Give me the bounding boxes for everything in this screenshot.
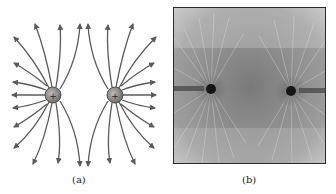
- field-lines-diagram: + +: [0, 0, 168, 170]
- svg-text:+: +: [111, 91, 119, 101]
- grass-seed-photo: [173, 7, 326, 164]
- caption-b: (b): [242, 174, 256, 185]
- caption-a: (a): [72, 174, 86, 185]
- positive-charge-left: +: [45, 87, 61, 103]
- charge-dot-left: [206, 84, 216, 94]
- positive-charge-right: +: [107, 87, 123, 103]
- svg-text:+: +: [49, 91, 57, 101]
- charge-dot-right: [286, 86, 296, 96]
